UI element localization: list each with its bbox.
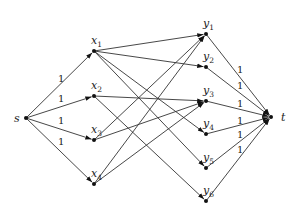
edge-capacity-label: 1 (58, 93, 64, 104)
edge-capacity-label: 1 (58, 115, 64, 126)
edge-capacity-label: 1 (237, 98, 243, 109)
edge-x1-y4 (94, 51, 204, 133)
node-x1 (92, 49, 96, 53)
node-y4 (204, 132, 208, 136)
node-label-y2: y2 (202, 50, 214, 65)
edge-capacity-label: 1 (237, 115, 243, 126)
edge-x4-y3 (94, 102, 204, 184)
edge-capacity-label: 1 (237, 144, 243, 155)
node-label-x4: x4 (91, 167, 102, 182)
node-label-x3: x3 (91, 123, 102, 138)
node-label-y1: y1 (202, 17, 214, 32)
edge-x3-y1 (94, 36, 204, 140)
node-label-x2: x2 (91, 79, 102, 94)
flow-network-diagram: 1111111111 sx1x2x3x4y1y2y3y4y5y6t (0, 0, 297, 217)
node-x4 (92, 182, 96, 186)
node-y3 (204, 99, 208, 103)
edge-x1-y5 (94, 51, 204, 166)
edge-x4-y1 (94, 36, 205, 184)
node-y6 (204, 199, 208, 203)
edge-s-x4 (26, 118, 92, 182)
edge-capacity-label: 1 (237, 129, 243, 140)
edge-capacity-label: 1 (58, 73, 64, 84)
edge-s-x1 (26, 53, 92, 118)
node-label-y3: y3 (202, 84, 214, 99)
node-label-y4: y4 (202, 117, 214, 132)
edge-capacity-label: 1 (237, 64, 243, 75)
node-labels-layer: sx1x2x3x4y1y2y3y4y5y6t (14, 17, 286, 199)
node-s (24, 116, 28, 120)
edge-capacity-label: 1 (58, 136, 64, 147)
node-label-s: s (14, 112, 20, 125)
node-label-x1: x1 (91, 34, 102, 49)
node-x3 (92, 138, 96, 142)
node-t (269, 115, 273, 119)
edge-x3-y3 (94, 102, 204, 140)
edge-x2-y3 (94, 96, 204, 101)
edge-x2-y6 (94, 96, 204, 199)
node-label-y5: y5 (202, 151, 214, 166)
edge-labels-layer: 1111111111 (58, 64, 243, 155)
edge-x1-y1 (94, 34, 204, 51)
node-y1 (204, 32, 208, 36)
node-y2 (204, 65, 208, 69)
node-label-y6: y6 (202, 184, 214, 199)
node-y5 (204, 166, 208, 170)
edge-capacity-label: 1 (237, 80, 243, 91)
node-x2 (92, 94, 96, 98)
node-label-t: t (281, 111, 286, 124)
